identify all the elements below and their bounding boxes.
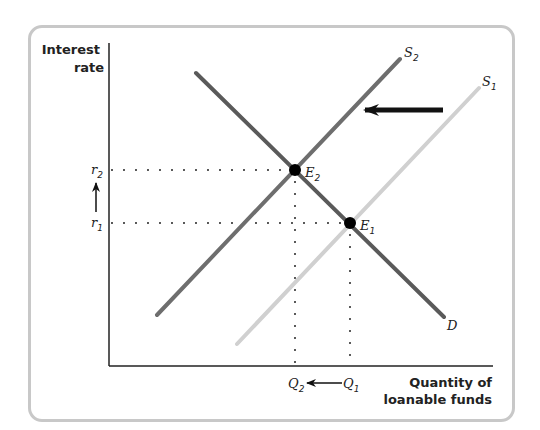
loanable-funds-chart: Interest rate Quantity of loanable funds… (0, 0, 540, 430)
supply-curve-s2 (157, 59, 400, 315)
x-axis-title-line1: Quantity of (409, 375, 492, 390)
supply-curve-s1 (237, 88, 479, 344)
tick-q2: Q2 (288, 376, 305, 394)
y-axis-title-line1: Interest (42, 42, 100, 57)
tick-r2: r2 (91, 162, 103, 180)
label-s1: S1 (482, 74, 497, 92)
equilibrium-point-e2 (289, 164, 301, 176)
y-axis-title-line2: rate (74, 60, 104, 75)
tick-r1: r1 (91, 215, 103, 233)
label-d: D (446, 318, 458, 333)
guide-lines (112, 170, 350, 366)
x-axis-title-line2: loanable funds (383, 392, 492, 407)
equilibrium-point-e1 (344, 217, 356, 229)
tick-q1: Q1 (343, 376, 359, 394)
label-s2: S2 (404, 45, 419, 63)
